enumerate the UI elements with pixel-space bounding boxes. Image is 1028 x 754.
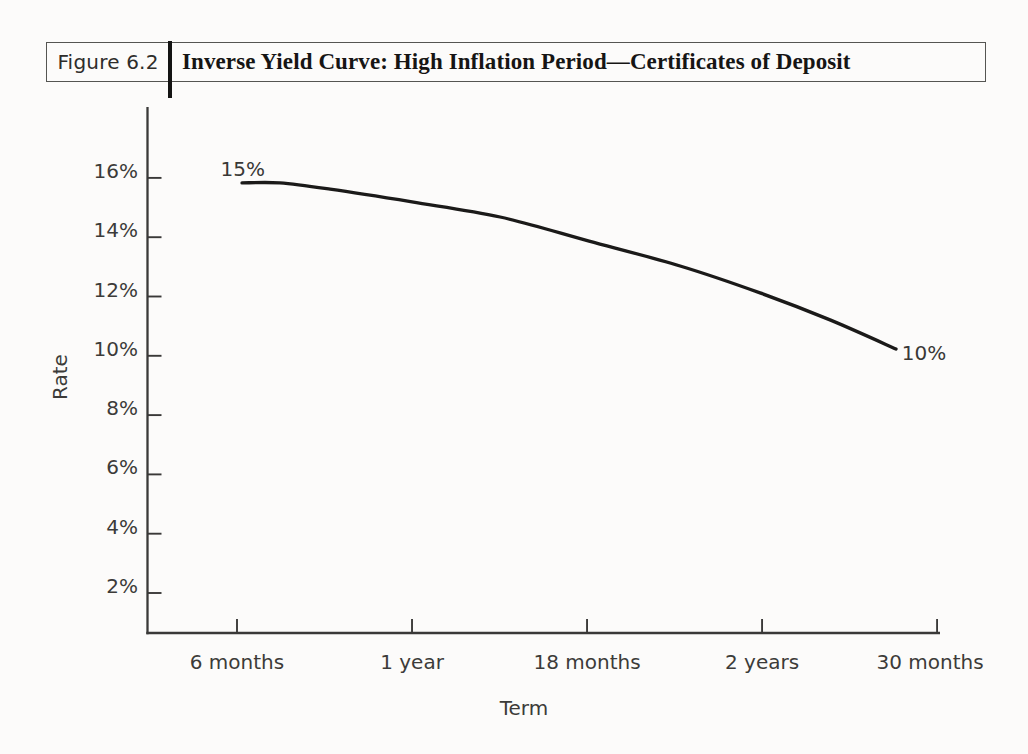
y-tick-label: 14% <box>68 218 138 242</box>
x-axis-title: Term <box>454 696 594 720</box>
y-axis-title: Rate <box>48 327 72 427</box>
yield-curve-line <box>242 182 896 349</box>
y-tick-label: 2% <box>68 574 138 598</box>
y-tick-label: 8% <box>68 396 138 420</box>
book-page: Figure 6.2 Inverse Yield Curve: High Inf… <box>0 0 1028 754</box>
x-tick-label: 1 year <box>337 650 487 674</box>
curve-annotation: 10% <box>889 341 959 365</box>
curve-annotation: 15% <box>208 157 278 181</box>
y-tick-label: 4% <box>68 515 138 539</box>
y-tick-label: 10% <box>68 337 138 361</box>
y-tick-label: 12% <box>68 278 138 302</box>
y-tick-label: 6% <box>68 455 138 479</box>
y-tick-label: 16% <box>68 159 138 183</box>
x-tick-label: 2 years <box>687 650 837 674</box>
x-tick-label: 6 months <box>162 650 312 674</box>
x-tick-label: 30 months <box>855 650 1005 674</box>
yield-curve-chart <box>0 0 1028 754</box>
x-tick-label: 18 months <box>512 650 662 674</box>
